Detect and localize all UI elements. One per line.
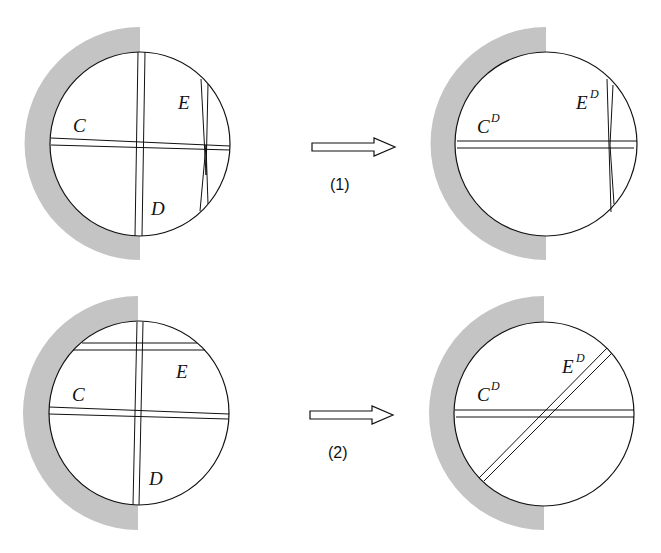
diagram-canvas: C D E (1) C D E D (0, 0, 661, 553)
label-e: E (175, 361, 188, 382)
panel-top-right: C D E D (431, 27, 637, 260)
label-c: C (73, 115, 86, 136)
label-c-d-superscript: D (490, 379, 500, 393)
label-e-d: E (575, 92, 588, 113)
arrow-right-icon (310, 406, 393, 424)
label-c: C (72, 384, 85, 405)
circle-boundary (50, 52, 230, 236)
label-d: D (150, 198, 165, 219)
label-e-d: E (561, 356, 574, 377)
transition-arrow-2: (2) (310, 406, 393, 461)
label-c-d-superscript: D (490, 111, 500, 125)
transition-label-1: (1) (330, 176, 350, 193)
label-c-d: C (477, 384, 490, 405)
label-e: E (177, 92, 190, 113)
label-d: D (148, 468, 163, 489)
panel-top-left: C D E (25, 27, 230, 260)
label-e-d-superscript: D (575, 351, 585, 365)
label-c-d: C (477, 116, 490, 137)
panel-bottom-left: C D E (23, 296, 229, 530)
circle-boundary (454, 322, 634, 506)
transition-label-2: (2) (328, 444, 348, 461)
transition-arrow-1: (1) (312, 138, 395, 193)
arrow-right-icon (312, 138, 395, 156)
label-e-d-superscript: D (589, 87, 599, 101)
panel-bottom-right: C D E D (429, 296, 634, 530)
